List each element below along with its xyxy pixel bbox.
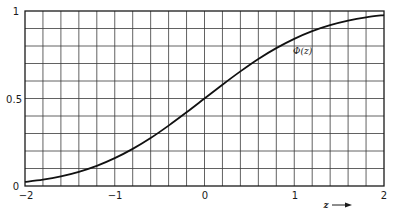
- y-tick-labels: 1 0.5 0: [6, 6, 22, 192]
- x-tick-label-0: 0: [202, 190, 208, 201]
- x-tick-label-neg2: −2: [19, 190, 34, 201]
- x-tick-label-2: 2: [381, 190, 387, 201]
- x-axis-label: z: [322, 200, 352, 210]
- x-tick-labels: −2 −1 0 1 2: [19, 190, 388, 201]
- x-axis-label-z: z: [322, 200, 329, 210]
- y-tick-label-0.5: 0.5: [6, 94, 22, 105]
- chart: 1 0.5 0 −2 −1 0 1 2 Φ(z) z: [0, 0, 394, 214]
- x-tick-label-1: 1: [292, 190, 298, 201]
- series-label-phi: Φ(z): [293, 46, 313, 56]
- x-tick-label-neg1: −1: [108, 190, 123, 201]
- arrow-right-icon: [345, 203, 352, 208]
- y-tick-label-1: 1: [13, 6, 19, 17]
